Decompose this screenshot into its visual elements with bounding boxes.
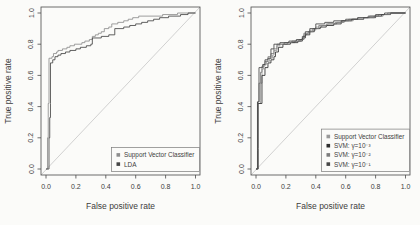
x-tick-label: 0.8 (371, 183, 381, 190)
y-axis-title: True positive rate (3, 58, 13, 124)
y-axis-title: True positive rate (213, 58, 223, 124)
y-tick-label: 0.6 (28, 70, 35, 80)
roc-plot-left: 0.00.20.40.60.81.00.00.20.40.60.81.0Fals… (0, 0, 210, 225)
x-tick-label: 0.2 (281, 183, 291, 190)
legend-label: SVM: γ=10⁻² (334, 151, 371, 159)
y-tick-label: 0.0 (28, 164, 35, 174)
legend-marker-square (117, 153, 121, 157)
x-tick-label: 0.6 (341, 183, 351, 190)
y-tick-label: 0.4 (238, 102, 245, 112)
x-tick-label: 1.0 (401, 183, 411, 190)
x-tick-label: 0.8 (161, 183, 171, 190)
legend-label: Support Vector Classifier (124, 151, 195, 159)
legend-marker-square (327, 135, 331, 139)
legend-label: Support Vector Classifier (334, 133, 405, 141)
x-tick-label: 0.4 (101, 183, 111, 190)
y-tick-label: 0.8 (238, 39, 245, 49)
y-tick-label: 1.0 (238, 8, 245, 18)
legend-label: SVM: γ=10⁻³ (334, 142, 371, 150)
plot-background (0, 0, 210, 225)
roc-figure: 0.00.20.40.60.81.00.00.20.40.60.81.0Fals… (0, 0, 420, 225)
x-axis-title: False positive rate (296, 201, 365, 211)
legend-marker-square (327, 153, 331, 157)
y-tick-label: 0.2 (238, 133, 245, 143)
y-tick-label: 1.0 (28, 8, 35, 18)
legend-marker-square (327, 162, 331, 166)
y-tick-label: 0.4 (28, 102, 35, 112)
y-tick-label: 0.0 (238, 164, 245, 174)
x-axis-title: False positive rate (86, 201, 155, 211)
x-tick-label: 0.0 (41, 183, 51, 190)
x-tick-label: 0.4 (311, 183, 321, 190)
legend-marker-square (117, 162, 121, 166)
roc-plot-right: 0.00.20.40.60.81.00.00.20.40.60.81.0Fals… (210, 0, 420, 225)
x-tick-label: 1.0 (191, 183, 201, 190)
legend-label: LDA (124, 161, 137, 168)
y-tick-label: 0.6 (238, 70, 245, 80)
x-tick-label: 0.6 (131, 183, 141, 190)
y-tick-label: 0.8 (28, 39, 35, 49)
x-tick-label: 0.0 (251, 183, 261, 190)
plot-background (210, 0, 420, 225)
x-tick-label: 0.2 (71, 183, 81, 190)
y-tick-label: 0.2 (28, 133, 35, 143)
legend-marker-square (327, 144, 331, 148)
legend-label: SVM: γ=10⁻¹ (334, 161, 371, 169)
